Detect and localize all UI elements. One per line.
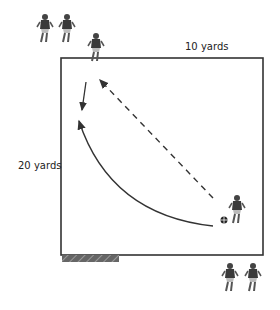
hatched-goal-bar: [62, 255, 119, 262]
field-boundary: [61, 58, 263, 255]
curved-run-arrow: [79, 121, 213, 226]
drill-diagram: [0, 0, 280, 310]
solid-run-arrow: [82, 82, 86, 110]
player-icon: [59, 14, 75, 42]
player-icon: [222, 263, 238, 291]
width-label: 10 yards: [185, 41, 228, 52]
height-label: 20 yards: [18, 160, 61, 171]
player-icon: [37, 14, 53, 42]
player-icon: [88, 33, 104, 61]
dashed-pass-arrow: [100, 80, 213, 198]
player-icon: [229, 195, 245, 223]
ball-icon: [221, 217, 228, 224]
player-icon: [245, 263, 261, 291]
